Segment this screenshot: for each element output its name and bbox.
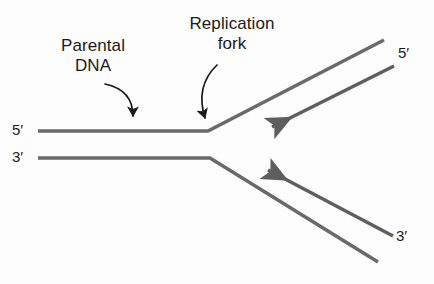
end-label-right-top-5prime: 5′ (398, 44, 409, 61)
strand-parental-template-bottom (38, 158, 378, 262)
parental-dna-label: Parental DNA (38, 36, 148, 75)
strand-daughter-top (272, 66, 394, 127)
parental-dna-label-line2: DNA (38, 56, 148, 76)
strand-daughter-bottom (268, 170, 393, 236)
replication-fork-figure: Parental DNA Replication fork 5′ 3′ 5′ 3… (0, 0, 434, 284)
end-label-left-bottom-3prime: 3′ (12, 148, 23, 165)
replication-fork-pointer-arrow (202, 65, 217, 118)
replication-fork-label: Replication fork (168, 14, 296, 53)
replication-fork-label-line2: fork (168, 34, 296, 54)
end-label-left-top-5prime: 5′ (12, 121, 23, 138)
replication-fork-label-line1: Replication (168, 14, 296, 34)
end-label-right-bottom-3prime: 3′ (396, 227, 407, 244)
parental-dna-label-line1: Parental (38, 36, 148, 56)
parental-dna-pointer-arrow (105, 84, 133, 116)
